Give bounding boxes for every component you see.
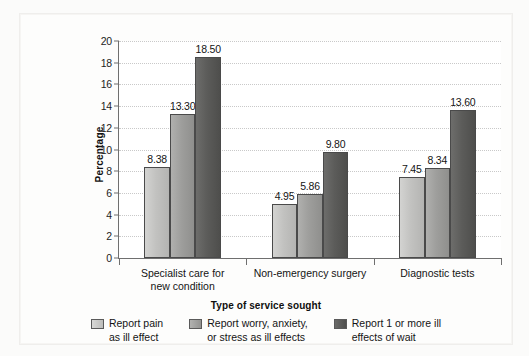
bar[interactable]: 9.80 — [323, 152, 349, 258]
y-tick-label: 16 — [101, 78, 112, 90]
legend-swatch — [91, 319, 104, 329]
x-axis-separator — [374, 258, 375, 265]
chart-legend: Report painas ill effectReport worry, an… — [20, 317, 512, 344]
y-tick-mark — [114, 149, 119, 150]
legend-label-line: effects of wait — [352, 331, 441, 345]
y-tick-mark — [114, 84, 119, 85]
bar-value-label: 8.34 — [428, 154, 448, 166]
legend-label-line: as ill effect — [109, 331, 163, 345]
legend-label-line: Report pain — [109, 317, 163, 329]
bar-value-label: 8.38 — [147, 153, 167, 165]
y-tick-label: 20 — [101, 35, 112, 47]
x-axis-group-label-line: Diagnostic tests — [400, 267, 474, 280]
y-tick-mark — [114, 62, 119, 63]
bar-value-label: 13.30 — [170, 100, 195, 112]
bar-value-label: 13.60 — [450, 96, 475, 108]
x-axis-group-label-line: new condition — [141, 280, 224, 293]
legend-label: Report worry, anxiety,or stress as ill e… — [207, 317, 308, 344]
legend-item[interactable]: Report worry, anxiety,or stress as ill e… — [189, 317, 308, 344]
y-tick-label: 18 — [101, 57, 112, 69]
bar[interactable]: 4.95 — [272, 204, 298, 258]
bar[interactable]: 7.45 — [399, 177, 425, 258]
legend-swatch — [189, 319, 202, 329]
y-tick-label: 6 — [106, 187, 112, 199]
x-axis-group-label-line: Specialist care for — [141, 267, 224, 280]
gridline — [119, 41, 501, 42]
bar-value-label: 9.80 — [326, 138, 346, 150]
x-axis-separator — [246, 258, 247, 265]
y-tick-label: 0 — [106, 252, 112, 264]
bar-value-label: 7.45 — [402, 163, 422, 175]
y-tick-mark — [114, 41, 119, 42]
figure-canvas: Percentage 02468101214161820 8.3813.3018… — [0, 0, 529, 356]
y-tick-label: 12 — [101, 122, 112, 134]
legend-label: Report 1 or more illeffects of wait — [352, 317, 441, 344]
bar[interactable]: 8.34 — [425, 168, 451, 258]
bar-value-label: 18.50 — [196, 43, 221, 55]
legend-label-line: or stress as ill effects — [207, 331, 308, 345]
gridline — [119, 84, 501, 85]
bar[interactable]: 5.86 — [297, 194, 323, 258]
y-tick-mark — [114, 192, 119, 193]
y-tick-label: 14 — [101, 100, 112, 112]
x-axis-separator — [119, 258, 120, 265]
chart-card: Percentage 02468101214161820 8.3813.3018… — [19, 13, 513, 345]
y-tick-mark — [114, 171, 119, 172]
x-axis-group-label: Diagnostic tests — [400, 267, 474, 280]
x-axis-separator — [501, 258, 502, 265]
legend-label-line: Report 1 or more ill — [352, 317, 441, 329]
y-tick-label: 8 — [106, 165, 112, 177]
bar[interactable]: 13.60 — [450, 110, 476, 258]
gridline — [119, 63, 501, 64]
y-tick-mark — [114, 214, 119, 215]
legend-item[interactable]: Report painas ill effect — [91, 317, 163, 344]
legend-label-line: Report worry, anxiety, — [207, 317, 308, 329]
bar[interactable]: 13.30 — [170, 114, 196, 258]
y-tick-mark — [114, 127, 119, 128]
bar-value-label: 5.86 — [300, 180, 320, 192]
y-tick-mark — [114, 236, 119, 237]
y-tick-label: 4 — [106, 209, 112, 221]
plot-area: 02468101214161820 8.3813.3018.504.955.86… — [118, 41, 501, 259]
bar[interactable]: 18.50 — [195, 57, 221, 258]
y-tick-label: 10 — [101, 144, 112, 156]
legend-label: Report painas ill effect — [109, 317, 163, 344]
y-tick-label: 2 — [106, 230, 112, 242]
x-axis-group-label: Specialist care fornew condition — [141, 267, 224, 293]
bar[interactable]: 8.38 — [144, 167, 170, 258]
legend-swatch — [334, 319, 347, 329]
legend-item[interactable]: Report 1 or more illeffects of wait — [334, 317, 441, 344]
bar-value-label: 4.95 — [275, 190, 295, 202]
x-axis-title: Type of service sought — [20, 300, 512, 311]
x-axis-group-label: Non-emergency surgery — [254, 267, 367, 280]
y-tick-mark — [114, 106, 119, 107]
x-axis-group-label-line: Non-emergency surgery — [254, 267, 367, 280]
